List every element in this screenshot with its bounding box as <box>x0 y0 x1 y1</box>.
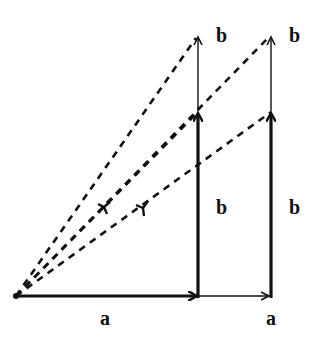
resultant-r1 <box>16 38 196 296</box>
label-b-mid-left: b <box>216 196 227 218</box>
label-b-mid-right: b <box>289 196 300 218</box>
label-a-left: a <box>100 307 110 329</box>
y-marker-icons <box>98 201 148 216</box>
resultant-vectors <box>16 38 271 296</box>
label-b-top-right: b <box>289 24 300 46</box>
vector-diagram: a a b b b b <box>0 0 318 338</box>
label-a-right: a <box>266 307 276 329</box>
label-b-top-left: b <box>216 24 227 46</box>
resultant-r4 <box>16 112 271 296</box>
origin-point <box>13 293 19 299</box>
